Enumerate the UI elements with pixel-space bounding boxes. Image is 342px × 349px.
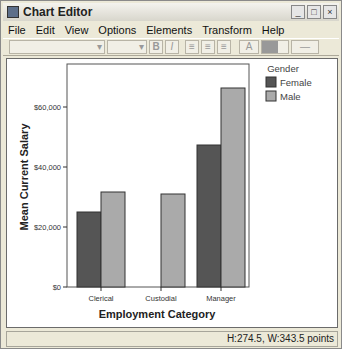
menu-help[interactable]: Help [257, 24, 290, 36]
ytick-40000: $40,000 [34, 163, 61, 172]
line-style-button[interactable]: — [291, 40, 319, 54]
x-axis-label: Employment Category [99, 308, 217, 320]
menu-view[interactable]: View [60, 24, 94, 36]
bar-custodial-male [161, 194, 185, 287]
ytick-20000: $20,000 [34, 223, 61, 232]
bar-clerical-male [101, 192, 125, 287]
bar-manager-female [197, 145, 221, 287]
close-button[interactable]: × [323, 5, 337, 19]
menu-edit[interactable]: Edit [31, 24, 60, 36]
legend: Gender Female Male [266, 63, 312, 102]
legend-swatch-female [266, 77, 276, 87]
menu-bar: File Edit View Options Elements Transfor… [3, 22, 339, 38]
menu-elements[interactable]: Elements [141, 24, 197, 36]
align-left-button[interactable]: ≡ [185, 40, 199, 54]
ytick-0: $0 [53, 283, 61, 292]
legend-label-male: Male [280, 91, 301, 102]
fill-color-button[interactable] [261, 40, 289, 54]
xtick-custodial: Custodial [145, 294, 177, 303]
align-right-button[interactable]: ≡ [217, 40, 231, 54]
ytick-60000: $60,000 [34, 103, 61, 112]
font-dropdown[interactable]: ▾ [9, 40, 105, 54]
xtick-clerical: Clerical [88, 294, 113, 303]
legend-label-female: Female [280, 77, 312, 88]
font-size-dropdown[interactable]: ▾ [107, 40, 147, 54]
minimize-button[interactable]: _ [291, 5, 305, 19]
y-axis-label: Mean Current Salary [18, 123, 30, 231]
status-bar: H:274.5, W:343.5 points [6, 331, 338, 347]
menu-file[interactable]: File [3, 24, 31, 36]
chart-canvas[interactable]: $0 $20,000 $40,000 $60,000 Mean Current … [6, 58, 338, 328]
title-bar[interactable]: Chart Editor _ □ × [3, 3, 339, 21]
menu-options[interactable]: Options [93, 24, 141, 36]
legend-title: Gender [267, 63, 299, 74]
maximize-button[interactable]: □ [307, 5, 321, 19]
xtick-manager: Manager [206, 294, 236, 303]
text-color-button[interactable]: A [239, 40, 259, 54]
chart-editor-window: Chart Editor _ □ × File Edit View Option… [0, 0, 342, 349]
align-center-button[interactable]: ≡ [201, 40, 215, 54]
legend-swatch-male [266, 91, 276, 101]
x-axis: Clerical Custodial Manager [88, 287, 236, 303]
menu-transform[interactable]: Transform [197, 24, 257, 36]
app-icon [7, 6, 19, 18]
window-title: Chart Editor [23, 5, 92, 19]
y-axis: $0 $20,000 $40,000 $60,000 [34, 103, 67, 292]
italic-button[interactable]: I [165, 40, 179, 54]
bar-clerical-female [77, 212, 101, 287]
bar-chart: $0 $20,000 $40,000 $60,000 Mean Current … [7, 59, 337, 327]
format-toolbar: ▾ ▾ B I ≡ ≡ ≡ A — [3, 38, 339, 56]
bold-button[interactable]: B [149, 40, 163, 54]
bar-manager-male [221, 88, 245, 287]
